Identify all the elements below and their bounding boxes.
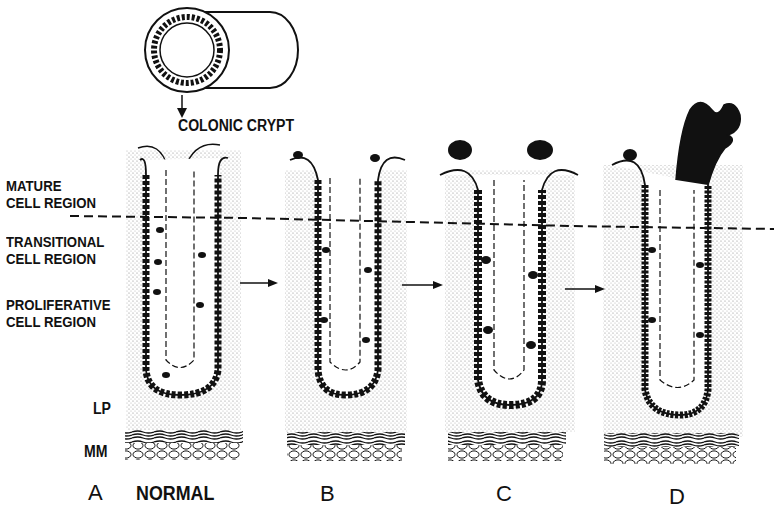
muscularis-mucosae <box>125 430 739 464</box>
panel-letter-d: D <box>669 484 685 510</box>
region-label-mature: MATURE CELL REGION <box>6 177 96 211</box>
region-label-proliferative: PROLIFERATIVE CELL REGION <box>6 296 111 330</box>
panel-letter-b: B <box>320 481 335 507</box>
crypt-a <box>138 144 228 395</box>
colon-tube-icon <box>145 8 298 118</box>
region-label-transitional: TRANSITIONAL CELL REGION <box>6 233 104 267</box>
panel-letter-c: C <box>496 481 512 507</box>
panel-caption-normal: NORMAL <box>136 481 214 505</box>
mm-label: MM <box>84 443 107 460</box>
crypt-progression-diagram <box>0 0 774 512</box>
colonic-crypt-label: COLONIC CRYPT <box>178 117 294 134</box>
lp-label: LP <box>93 400 111 417</box>
panel-letter-a: A <box>88 480 103 506</box>
